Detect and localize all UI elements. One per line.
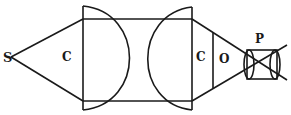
eyepiece-right-lens [270, 50, 280, 79]
label-eyepiece: P [255, 32, 264, 46]
label-objective: O [219, 52, 229, 66]
label-cone-right: C [196, 50, 206, 64]
left-lens-curved-side [83, 6, 130, 110]
ray-lower-left [11, 57, 83, 101]
optics-diagram: S C C O P [0, 0, 291, 115]
label-cone-left: C [62, 50, 72, 64]
ray-lower-right [192, 45, 287, 101]
ray-upper-left [11, 19, 83, 57]
right-lens-curved-side [148, 7, 192, 110]
label-source: S [3, 50, 12, 65]
